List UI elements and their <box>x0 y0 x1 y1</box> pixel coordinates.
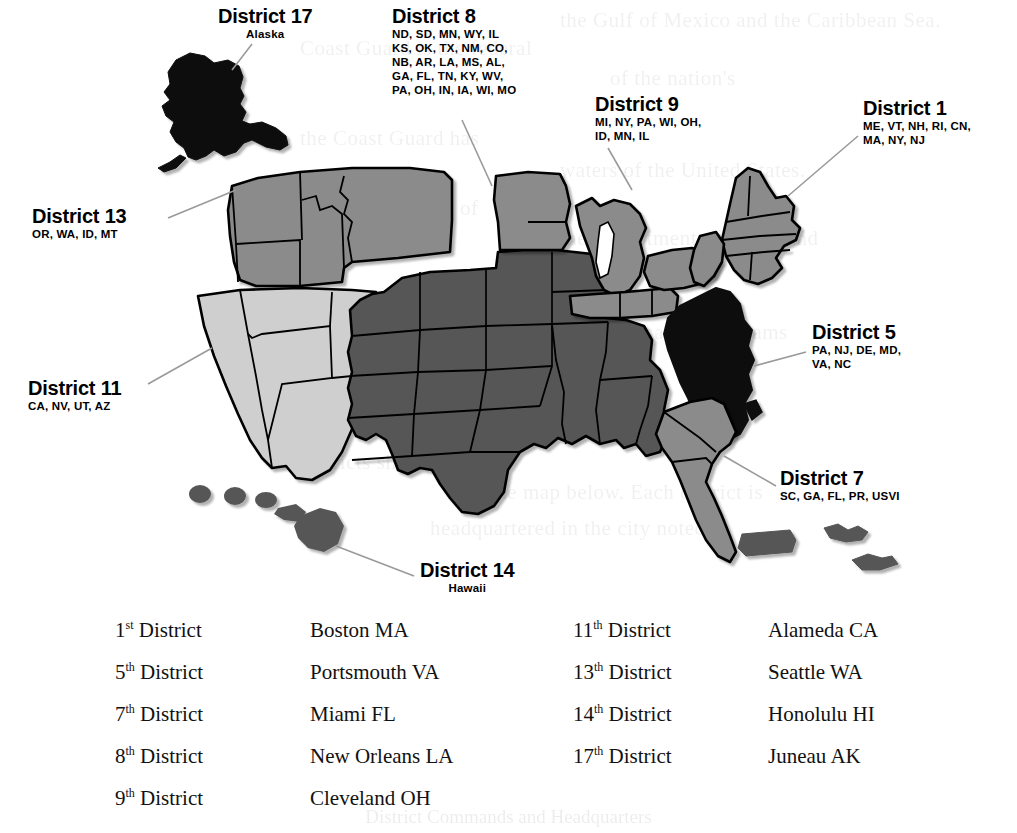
leader-line-district-8 <box>462 120 492 186</box>
district-list-row: 11th DistrictAlameda CA <box>573 618 878 660</box>
leader-line-district-14 <box>336 546 414 576</box>
callout-states-district-9: MI, NY, PA, WI, OH, ID, MN, IL <box>595 115 701 143</box>
leader-line-district-17 <box>232 44 252 70</box>
leader-line-district-1 <box>788 136 858 196</box>
district-list-row: 14th DistrictHonolulu HI <box>573 702 878 744</box>
district-headquarters-city: Honolulu HI <box>768 702 875 727</box>
district-headquarters-city: Portsmouth VA <box>310 660 439 685</box>
district-list-row: 5th DistrictPortsmouth VA <box>115 660 453 702</box>
callout-states-district-5: PA, NJ, DE, MD, VA, NC <box>812 343 901 371</box>
district-ordinal: 8th District <box>115 744 310 769</box>
leader-line-district-9 <box>608 148 632 190</box>
ordinal-suffix: th <box>126 744 135 758</box>
coast-guard-district-map: District 17AlaskaDistrict 8ND, SD, MN, W… <box>0 0 1017 615</box>
ordinal-suffix: th <box>594 660 603 674</box>
leader-line-district-5 <box>754 352 806 366</box>
district-headquarters-city: Boston MA <box>310 618 409 643</box>
callout-title-district-5: District 5 <box>812 322 901 343</box>
district-headquarters-city: Alameda CA <box>768 618 878 643</box>
callout-title-district-11: District 11 <box>28 378 121 399</box>
district-list-right-column: 11th DistrictAlameda CA13th DistrictSeat… <box>573 618 878 786</box>
district-headquarters-list: 1st DistrictBoston MA5th DistrictPortsmo… <box>0 618 1017 808</box>
district-ordinal: 11th District <box>573 618 768 643</box>
district-list-row: 17th DistrictJuneau AK <box>573 744 878 786</box>
district-list-left-column: 1st DistrictBoston MA5th DistrictPortsmo… <box>115 618 453 828</box>
ordinal-suffix: th <box>126 786 135 800</box>
district-list-row: 8th DistrictNew Orleans LA <box>115 744 453 786</box>
callout-district-8[interactable]: District 8ND, SD, MN, WY, IL KS, OK, TX,… <box>392 6 516 97</box>
leader-line-district-13 <box>168 190 236 218</box>
leader-line-district-11 <box>148 348 212 384</box>
district-ordinal: 14th District <box>573 702 768 727</box>
callout-title-district-14: District 14 <box>420 560 515 581</box>
callout-states-district-17: Alaska <box>218 27 313 41</box>
map-region-district-17[interactable] <box>158 53 288 172</box>
map-region-district-1[interactable] <box>690 168 800 286</box>
callout-states-district-14: Hawaii <box>420 581 515 595</box>
ordinal-suffix: th <box>593 618 602 632</box>
callout-title-district-7: District 7 <box>780 468 900 489</box>
ordinal-suffix: th <box>594 744 603 758</box>
district-ordinal: 1st District <box>115 618 310 643</box>
callout-title-district-1: District 1 <box>863 98 971 119</box>
map-region-district-14[interactable] <box>189 485 344 552</box>
leader-line-district-7 <box>724 456 776 486</box>
ordinal-suffix: th <box>594 702 603 716</box>
footer-bleed-text: District Commands and Headquarters <box>0 806 1017 828</box>
callout-district-9[interactable]: District 9MI, NY, PA, WI, OH, ID, MN, IL <box>595 94 701 143</box>
callout-title-district-9: District 9 <box>595 94 701 115</box>
district-ordinal: 17th District <box>573 744 768 769</box>
district-list-row: 13th DistrictSeattle WA <box>573 660 878 702</box>
district-headquarters-city: New Orleans LA <box>310 744 453 769</box>
district-list-row: 7th DistrictMiami FL <box>115 702 453 744</box>
district-list-row: 1st DistrictBoston MA <box>115 618 453 660</box>
map-region-district-13[interactable] <box>228 168 452 286</box>
callout-district-14[interactable]: District 14Hawaii <box>420 560 515 595</box>
callout-title-district-13: District 13 <box>32 206 127 227</box>
district-headquarters-city: Miami FL <box>310 702 396 727</box>
district-ordinal: 13th District <box>573 660 768 685</box>
callout-title-district-8: District 8 <box>392 6 516 27</box>
callout-district-1[interactable]: District 1ME, VT, NH, RI, CN, MA, NY, NJ <box>863 98 971 147</box>
callout-title-district-17: District 17 <box>218 6 313 27</box>
callout-district-13[interactable]: District 13OR, WA, ID, MT <box>32 206 127 241</box>
callout-district-17[interactable]: District 17Alaska <box>218 6 313 41</box>
callout-states-district-13: OR, WA, ID, MT <box>32 227 127 241</box>
ordinal-suffix: th <box>126 702 135 716</box>
district-ordinal: 5th District <box>115 660 310 685</box>
district-ordinal: 7th District <box>115 702 310 727</box>
district-headquarters-city: Seattle WA <box>768 660 863 685</box>
callout-states-district-7: SC, GA, FL, PR, USVI <box>780 489 900 503</box>
callout-district-5[interactable]: District 5PA, NJ, DE, MD, VA, NC <box>812 322 901 371</box>
district-headquarters-city: Juneau AK <box>768 744 861 769</box>
callout-district-7[interactable]: District 7SC, GA, FL, PR, USVI <box>780 468 900 503</box>
ordinal-suffix: th <box>126 660 135 674</box>
callout-states-district-11: CA, NV, UT, AZ <box>28 399 121 413</box>
callout-district-11[interactable]: District 11CA, NV, UT, AZ <box>28 378 121 413</box>
callout-states-district-1: ME, VT, NH, RI, CN, MA, NY, NJ <box>863 119 971 147</box>
callout-states-district-8: ND, SD, MN, WY, IL KS, OK, TX, NM, CO, N… <box>392 27 516 97</box>
ordinal-suffix: st <box>126 618 134 632</box>
